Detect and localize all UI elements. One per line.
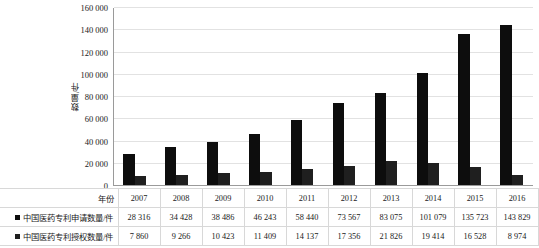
bar-group [240, 8, 282, 185]
bar-group [407, 8, 449, 185]
value-cell: 28 316 [118, 208, 160, 227]
bar-grants [302, 169, 313, 185]
bar-applications [207, 142, 218, 185]
y-axis-tick-label: 160 000 [48, 4, 108, 13]
legend-row-header: 中国医药专利申请数量/件 [0, 208, 118, 227]
y-axis-tick-label: 120 000 [48, 48, 108, 57]
value-cell: 58 440 [286, 208, 328, 227]
value-cell: 9 266 [160, 227, 202, 246]
bar-grants [176, 175, 187, 185]
year-cell: 2007 [118, 189, 160, 208]
y-axis-tick-label: 20 000 [48, 159, 108, 168]
legend-row-header: 中国医药专利授权数量/件 [0, 227, 118, 246]
bar-applications [375, 93, 386, 185]
plot-region: 数量/件 020 00040 00060 00080 000100 000120… [0, 0, 538, 192]
bar-grants [218, 173, 229, 185]
y-axis-tick-label: 40 000 [48, 137, 108, 146]
value-cell: 7 860 [118, 227, 160, 246]
value-cell: 19 414 [412, 227, 454, 246]
value-cell: 101 079 [412, 208, 454, 227]
value-cell: 135 723 [454, 208, 496, 227]
value-cell: 8 974 [496, 227, 538, 246]
value-cell: 83 075 [370, 208, 412, 227]
bar-grants [512, 175, 523, 185]
bar-applications [123, 154, 134, 186]
bar-grants [135, 176, 146, 185]
value-cell: 143 829 [496, 208, 538, 227]
bar-group [491, 8, 533, 185]
value-cell: 21 826 [370, 227, 412, 246]
value-cell: 46 243 [244, 208, 286, 227]
row-header-label: 年份 [98, 195, 114, 204]
bar-applications [249, 134, 260, 185]
value-cell: 11 409 [244, 227, 286, 246]
y-axis-tick-label: 140 000 [48, 26, 108, 35]
year-cell: 2009 [202, 189, 244, 208]
bar-grants [470, 167, 481, 185]
y-axis-tick-label: 100 000 [48, 70, 108, 79]
year-cell: 2010 [244, 189, 286, 208]
value-cell: 10 423 [202, 227, 244, 246]
year-cell: 2016 [496, 189, 538, 208]
plot-area [113, 8, 533, 186]
bars-layer [114, 8, 533, 185]
bar-applications [333, 103, 344, 185]
value-cell: 17 356 [328, 227, 370, 246]
row-header-label: 中国医药专利申请数量/件 [23, 214, 113, 223]
bar-grants [386, 161, 397, 185]
legend-swatch-icon [15, 234, 20, 239]
legend-swatch-icon [15, 215, 20, 220]
value-cell: 73 567 [328, 208, 370, 227]
bar-applications [165, 147, 176, 185]
year-cell: 2015 [454, 189, 496, 208]
bar-group [156, 8, 198, 185]
bar-group [449, 8, 491, 185]
year-cell: 2013 [370, 189, 412, 208]
bar-group [198, 8, 240, 185]
data-table: 年份20072008200920102011201220132014201520… [0, 188, 539, 246]
year-cell: 2012 [328, 189, 370, 208]
data-table-body: 年份20072008200920102011201220132014201520… [0, 189, 538, 246]
value-cell: 16 528 [454, 227, 496, 246]
bar-applications [500, 25, 511, 185]
year-cell: 2014 [412, 189, 454, 208]
value-cell: 34 428 [160, 208, 202, 227]
year-cell: 2011 [286, 189, 328, 208]
bar-group [365, 8, 407, 185]
bar-grants [260, 172, 271, 185]
table-row: 中国医药专利申请数量/件28 31634 42838 48646 24358 4… [0, 208, 538, 227]
table-row: 中国医药专利授权数量/件7 8609 26610 42311 40914 137… [0, 227, 538, 246]
bar-group [324, 8, 366, 185]
y-axis-tick-label: 60 000 [48, 115, 108, 124]
bar-grants [428, 163, 439, 185]
y-axis-tick-label: 80 000 [48, 93, 108, 102]
bar-group [114, 8, 156, 185]
bar-applications [291, 120, 302, 185]
value-cell: 38 486 [202, 208, 244, 227]
bar-group [282, 8, 324, 185]
row-header-label: 中国医药专利授权数量/件 [23, 233, 113, 242]
bar-applications [417, 73, 428, 185]
bar-grants [344, 166, 355, 185]
year-cell: 2008 [160, 189, 202, 208]
value-cell: 14 137 [286, 227, 328, 246]
bar-applications [458, 34, 469, 185]
table-row: 年份20072008200920102011201220132014201520… [0, 189, 538, 208]
row-header-year: 年份 [0, 189, 118, 208]
